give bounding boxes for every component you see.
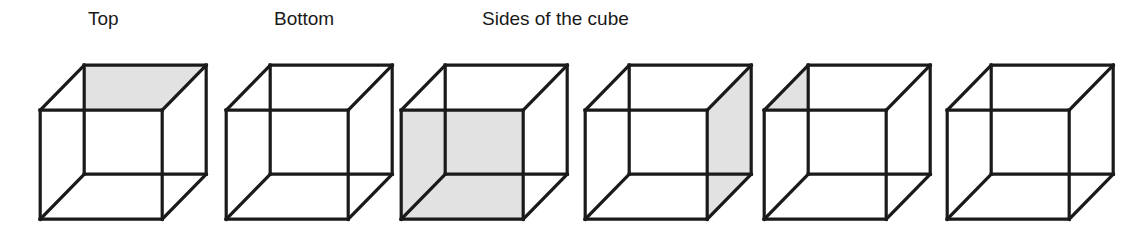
caption-sides-label: Sides of the cube <box>482 8 629 29</box>
cube-left-shaded-drawing <box>757 55 933 226</box>
cube-bottom-shaded-drawing <box>219 55 395 226</box>
cube-back-shaded-drawing <box>940 55 1116 226</box>
caption-sides-of-the-cube: Sides of the cube <box>482 8 629 30</box>
cube-front-shaded-drawing <box>394 55 570 226</box>
cube-bottom-shaded <box>219 55 395 226</box>
caption-top-label: Top <box>88 8 119 29</box>
cube-top-shaded-face-front <box>40 110 162 219</box>
cube-front-shaded <box>394 55 570 226</box>
cube-back-shaded <box>940 55 1116 226</box>
cube-right-shaded-face-front <box>585 110 707 219</box>
cube-top-shaded-drawing <box>33 55 209 226</box>
cube-top-shaded <box>33 55 209 226</box>
cube-left-shaded-face-front <box>764 110 886 219</box>
cube-back-shaded-face-front <box>947 110 1069 219</box>
cube-left-shaded <box>757 55 933 226</box>
caption-bottom: Bottom <box>274 8 334 30</box>
cube-faces-figure: Top Bottom Sides of the cube <box>0 0 1137 234</box>
cube-right-shaded-drawing <box>578 55 754 226</box>
caption-top: Top <box>88 8 119 30</box>
cube-front-shaded-face-front <box>401 110 523 219</box>
cube-right-shaded <box>578 55 754 226</box>
cube-bottom-shaded-face-front <box>226 110 348 219</box>
caption-bottom-label: Bottom <box>274 8 334 29</box>
